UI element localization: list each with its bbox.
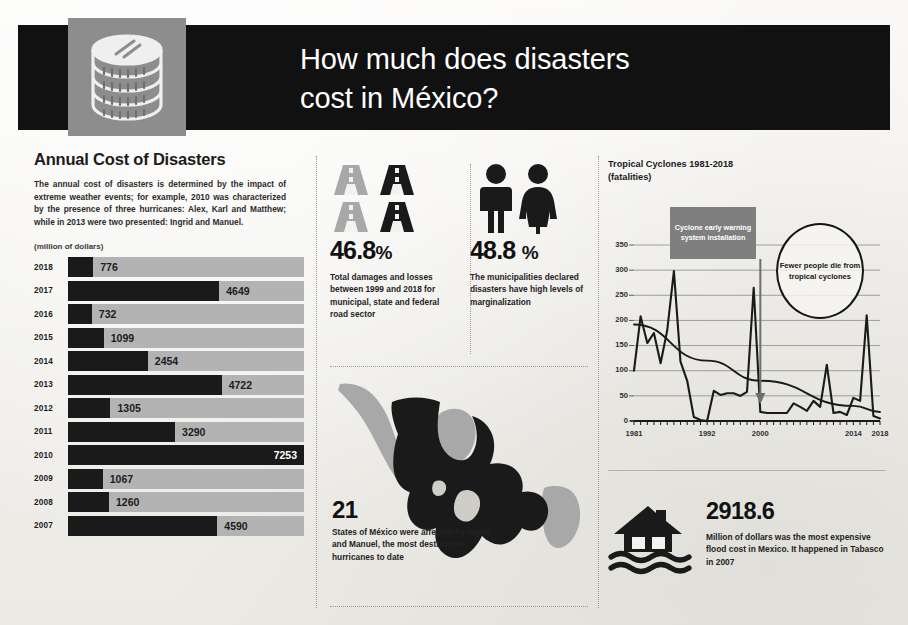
y-axis-tick-label: 350 — [608, 240, 628, 249]
bar-track: 4590 — [68, 516, 304, 536]
bar-row: 20074590 — [34, 516, 304, 536]
bar-year-label: 2007 — [34, 521, 68, 530]
stat-road-description: Total damages and losses between 1999 an… — [330, 271, 452, 321]
bar-year-label: 2017 — [34, 286, 68, 295]
stat-marginalization: 48.8 % The municipalities declared disas… — [470, 160, 592, 321]
bar-fill — [68, 492, 109, 512]
y-axis-tick-label: 50 — [608, 391, 628, 400]
bar-value-label: 1305 — [117, 402, 140, 414]
mexico-map-icon — [330, 372, 592, 604]
bar-fill — [68, 351, 148, 371]
stat-marginalization-percent-symbol: % — [522, 242, 539, 263]
bar-year-label: 2010 — [34, 451, 68, 460]
bar-track: 3290 — [68, 422, 304, 442]
bar-fill — [68, 516, 217, 536]
middle-stats-section: 46.8% Total damages and losses between 1… — [330, 160, 592, 321]
stat-marginalization-percent: 48.8 % — [470, 236, 592, 265]
bar-track: 1260 — [68, 492, 304, 512]
bar-track: 4722 — [68, 375, 304, 395]
bar-row: 20174649 — [34, 281, 304, 301]
x-axis-tick-label: 2018 — [868, 429, 892, 438]
bar-value-label: 4590 — [224, 520, 247, 532]
bar-track: 2454 — [68, 351, 304, 371]
bar-year-label: 2011 — [34, 427, 68, 436]
y-axis-tick-label: 100 — [608, 365, 628, 374]
bar-year-label: 2008 — [34, 498, 68, 507]
map-caption: 21 States of México were affected by Ing… — [332, 498, 492, 563]
flood-cost-block: 2918.6 Million of dollars was the most e… — [608, 498, 890, 582]
road-icon — [330, 160, 452, 234]
x-axis-tick-label: 1992 — [695, 429, 719, 438]
section-heading-annual-cost: Annual Cost of Disasters — [34, 150, 304, 169]
bar-fill — [68, 328, 104, 348]
bar-row: 20134722 — [34, 375, 304, 395]
bar-year-label: 2016 — [34, 310, 68, 319]
line-chart-title-sub: (fatalities) — [608, 171, 886, 184]
bar-year-label: 2014 — [34, 357, 68, 366]
bar-track: 1099 — [68, 328, 304, 348]
bar-value-label: 1067 — [110, 473, 133, 485]
y-axis-tick-label: 300 — [608, 265, 628, 274]
bar-track: 1067 — [68, 469, 304, 489]
bar-year-label: 2015 — [34, 333, 68, 342]
bar-value-label: 7253 — [274, 449, 297, 461]
fewer-deaths-callout: Fewer people die from tropical cyclones — [776, 223, 864, 319]
bar-value-label: 4649 — [226, 285, 249, 297]
tropical-cyclones-section: Tropical Cyclones 1981-2018 (fatalities)… — [608, 158, 886, 459]
line-chart-title-main: Tropical Cyclones 1981-2018 — [608, 158, 886, 171]
tropical-cyclones-line-chart: Cyclone early warning system installatio… — [608, 197, 886, 459]
infographic-page: How much does disasters cost in México? … — [0, 0, 908, 625]
flood-cost-value: 2918.6 — [706, 500, 890, 524]
bar-track: 776 — [68, 257, 304, 277]
bar-row: 20121305 — [34, 398, 304, 418]
stat-road-percent-value: 46.8 — [330, 236, 375, 264]
fewer-deaths-callout-text: Fewer people die from tropical cyclones — [778, 260, 862, 282]
divider-middle-bottom — [330, 606, 588, 607]
bar-value-label: 2454 — [155, 355, 178, 367]
divider-left-middle — [316, 156, 317, 608]
bar-chart-units-label: (million of dollars) — [34, 242, 304, 251]
x-axis-tick-label: 2000 — [748, 429, 772, 438]
bar-year-label: 2013 — [34, 380, 68, 389]
flooded-house-icon — [608, 498, 692, 582]
stat-road-percent: 46.8% — [330, 236, 452, 265]
y-axis-tick-label: 150 — [608, 340, 628, 349]
bar-fill — [68, 304, 92, 324]
bar-value-label: 1099 — [111, 332, 134, 344]
bar-value-label: 776 — [100, 261, 118, 273]
annual-cost-bar-chart: 2018776201746492016732201510992014245420… — [34, 257, 304, 536]
stat-marginalization-percent-value: 48.8 — [470, 236, 515, 264]
bar-fill — [68, 469, 103, 489]
people-icon — [470, 160, 592, 234]
bar-value-label: 3290 — [182, 426, 205, 438]
bar-row: 2018776 — [34, 257, 304, 277]
y-axis-tick-label: 250 — [608, 290, 628, 299]
divider-middle-right — [598, 156, 599, 608]
bar-track: 1305 — [68, 398, 304, 418]
bar-row: 20081260 — [34, 492, 304, 512]
bar-row: 20113290 — [34, 422, 304, 442]
bar-row: 20091067 — [34, 469, 304, 489]
x-axis-tick-label: 2014 — [841, 429, 865, 438]
bar-value-label: 732 — [99, 308, 117, 320]
bar-fill — [68, 422, 175, 442]
bar-track: 7253 — [68, 445, 304, 465]
x-axis-tick-label: 1981 — [622, 429, 646, 438]
callout-arrow-head — [755, 393, 765, 404]
bar-row: 20151099 — [34, 328, 304, 348]
map-states-count: 21 — [332, 498, 492, 522]
bar-fill — [68, 257, 93, 277]
flood-cost-description: Million of dollars was the most expensiv… — [706, 531, 890, 569]
bar-row: 20107253 — [34, 445, 304, 465]
bar-row: 20142454 — [34, 351, 304, 371]
stat-road-percent-symbol: % — [375, 242, 392, 263]
map-description: States of México were affected by Ingrid… — [332, 526, 492, 563]
bar-fill — [68, 445, 304, 465]
divider-stats — [470, 164, 471, 354]
mexico-map-block: 21 States of México were affected by Ing… — [330, 372, 592, 604]
bar-value-label: 1260 — [116, 496, 139, 508]
bar-year-label: 2018 — [34, 263, 68, 272]
warning-system-callout: Cyclone early warning system installatio… — [670, 207, 756, 259]
bar-year-label: 2012 — [34, 404, 68, 413]
page-title-line-1: How much does disasters — [300, 40, 820, 79]
